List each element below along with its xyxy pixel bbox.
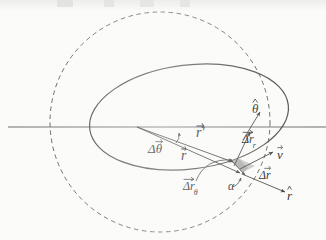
label-unit-vector-r-hat: r — [287, 189, 292, 202]
label-tangential-component-delta-r-theta: Δr θ — [183, 180, 199, 195]
label-position-vector-r: r — [181, 149, 186, 163]
label-displacement-vector-delta-r: Δr — [259, 169, 271, 181]
label-velocity-vector-v: v — [277, 148, 283, 161]
scan-artifact — [180, 0, 190, 7]
orbit-diagram-canvas — [0, 0, 326, 240]
vector-velocity-shaft — [240, 152, 273, 169]
elliptical-orbit — [83, 53, 294, 181]
subscript-r: r — [253, 141, 256, 150]
label-radial-component-delta-r-r: Δr r — [242, 133, 257, 148]
scan-artifact — [57, 0, 73, 7]
label-position-vector-r-prime: r′ — [196, 126, 205, 140]
scan-artifact — [104, 0, 114, 7]
label-angle-alpha: α — [228, 180, 234, 192]
arc-delta-r-theta — [196, 160, 232, 181]
subscript-theta: θ — [194, 188, 198, 197]
dashed-reference-circle — [50, 12, 270, 232]
label-unit-vector-theta-hat: θ — [252, 102, 258, 115]
orbit-diagram-figure: r′ r Δθ θ — [0, 0, 326, 240]
label-swept-angle-delta-theta: Δθ — [148, 142, 162, 155]
scan-artifact — [140, 0, 154, 7]
